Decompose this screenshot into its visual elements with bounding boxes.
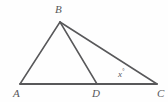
geometry-canvas (0, 0, 168, 102)
segment-AB (20, 22, 60, 84)
vertex-label-D: D (92, 88, 100, 99)
angle-label-x-degrees: x° (118, 68, 124, 79)
vertex-label-A: A (13, 88, 20, 99)
segment-BD (60, 22, 97, 84)
vertex-label-C: C (157, 88, 164, 99)
degree-symbol-icon: ° (122, 68, 124, 74)
vertex-label-B: B (55, 4, 62, 15)
geometry-figure: A B D C x° (0, 0, 168, 102)
segment-BC (60, 22, 157, 84)
